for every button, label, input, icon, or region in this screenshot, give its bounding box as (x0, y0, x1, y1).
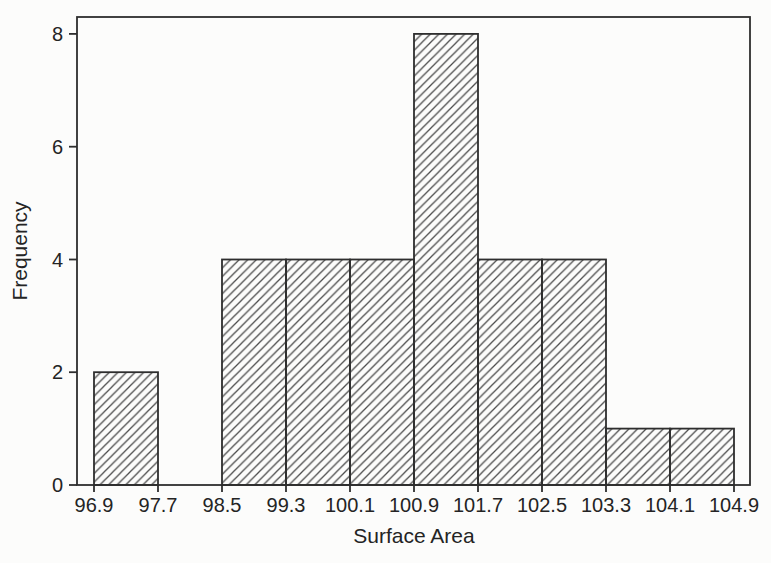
x-axis-tick-labels: 96.997.798.599.3100.1100.9101.7102.5103.… (75, 494, 760, 516)
x-tick-label: 96.9 (75, 494, 114, 516)
x-tick-label: 101.7 (453, 494, 503, 516)
x-tick-label: 100.1 (325, 494, 375, 516)
y-tick-label: 2 (52, 361, 63, 383)
x-tick-label: 104.9 (709, 494, 759, 516)
x-tick-label: 103.3 (581, 494, 631, 516)
x-tick-label: 102.5 (517, 494, 567, 516)
x-tick-label: 98.5 (203, 494, 242, 516)
x-tick-label: 104.1 (645, 494, 695, 516)
histogram-bar (222, 260, 286, 486)
x-tick-label: 99.3 (267, 494, 306, 516)
y-axis-title: Frequency (8, 201, 31, 301)
y-tick-label: 0 (52, 474, 63, 496)
histogram-chart: 96.997.798.599.3100.1100.9101.7102.5103.… (0, 0, 771, 563)
histogram-bar (350, 260, 414, 486)
y-tick-label: 8 (52, 23, 63, 45)
y-axis-tick-labels: 02468 (52, 23, 63, 496)
x-axis-ticks (94, 485, 734, 492)
histogram-bar (286, 260, 350, 486)
histogram-bar (542, 260, 606, 486)
histogram-bar (478, 260, 542, 486)
histogram-bar (94, 372, 158, 485)
y-tick-label: 6 (52, 136, 63, 158)
histogram-bar (414, 34, 478, 485)
histogram-figure: 96.997.798.599.3100.1100.9101.7102.5103.… (0, 0, 771, 563)
histogram-bar (606, 429, 670, 485)
x-tick-label: 97.7 (139, 494, 178, 516)
y-tick-label: 4 (52, 249, 63, 271)
y-axis-ticks (69, 34, 77, 485)
bars-group (94, 34, 734, 485)
x-tick-label: 100.9 (389, 494, 439, 516)
histogram-bar (670, 429, 734, 485)
x-axis-title: Surface Area (353, 524, 475, 547)
